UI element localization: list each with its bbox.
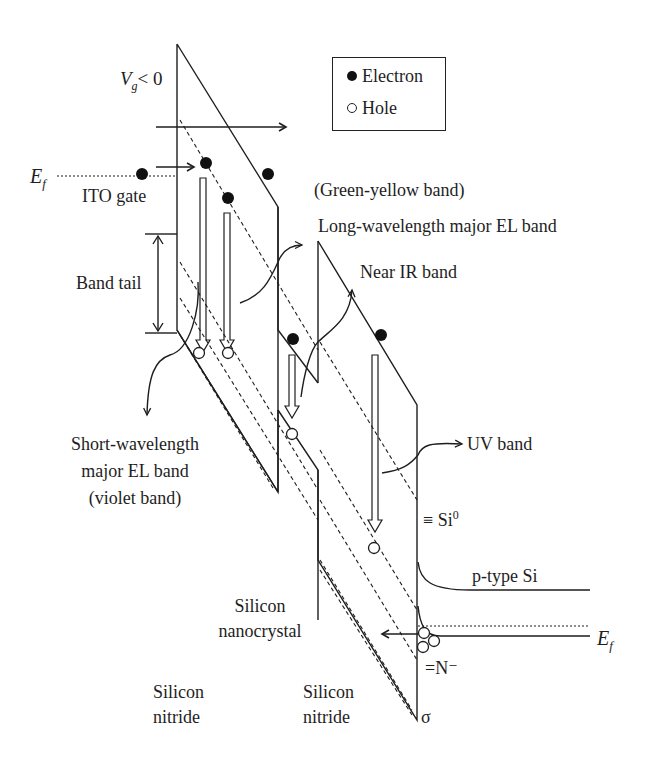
right-nitride-dashed-1 [320, 342, 417, 500]
left-nitride-dashed-1 [180, 120, 318, 350]
green-yellow-band-label: (Green-yellow band) [314, 180, 464, 200]
band-tail-label: Band tail [76, 273, 142, 293]
nanocrystal-band-left [278, 207, 318, 383]
fermi-level-left-label: Ef [30, 166, 46, 194]
recombination-arrow-1 [196, 178, 210, 352]
p-type-si-label: p-type Si [472, 566, 538, 586]
hole-4 [369, 543, 380, 554]
callout-short-wavelength [147, 282, 198, 415]
right-nitride-dashed-3 [320, 500, 417, 660]
electron-gate [136, 168, 148, 180]
hole-7 [418, 642, 429, 653]
legend-item-electron: Electron [347, 66, 423, 87]
electron-4 [287, 333, 299, 345]
hole-5 [419, 628, 430, 639]
silicon-nitride-left-label: Silicon nitride [153, 680, 204, 730]
near-ir-band-label: Near IR band [360, 262, 457, 282]
ito-gate-label: ITO gate [82, 186, 146, 206]
sigma-label: σ [421, 707, 431, 727]
band-diagram [0, 0, 648, 763]
hole-3 [287, 429, 298, 440]
recombination-arrow-3 [285, 355, 299, 418]
short-wavelength-band-label: Short-wavelength major EL band (violet b… [40, 431, 230, 512]
callout-uv [382, 443, 462, 473]
hole-6 [429, 636, 440, 647]
electron-5 [375, 329, 387, 341]
left-nitride-conduction-band [177, 44, 278, 492]
electron-3 [222, 192, 234, 204]
gate-voltage-label: Vg< 0 [120, 69, 163, 96]
legend: Electron Hole [332, 57, 446, 131]
callout-long-wavelength [240, 245, 302, 303]
p-type-si-valence-band [418, 606, 590, 636]
hole-1 [194, 348, 205, 359]
si0-label: ≡ Si0 [423, 505, 459, 530]
fermi-level-right-label: Ef [597, 628, 613, 656]
legend-item-hole: Hole [347, 98, 397, 119]
uv-band-label: UV band [467, 434, 532, 454]
electron-2 [262, 168, 274, 180]
silicon-nitride-right-label: Silicon nitride [303, 680, 354, 730]
silicon-nanocrystal-label: Silicon nanocrystal [200, 594, 320, 644]
long-wavelength-band-label: Long-wavelength major EL band [318, 216, 557, 236]
electron-1 [200, 157, 212, 169]
hole-marker-icon [347, 103, 357, 113]
electron-marker-icon [347, 71, 357, 81]
recombination-arrow-4 [368, 355, 382, 532]
hole-2 [223, 348, 234, 359]
n-minus-label: =N⁻ [425, 658, 458, 678]
